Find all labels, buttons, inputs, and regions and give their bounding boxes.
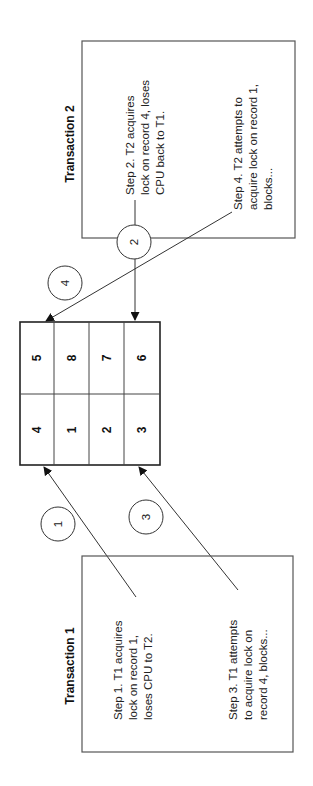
- transaction-2-title: Transaction 2: [63, 105, 77, 183]
- record-cell: 8: [65, 354, 79, 361]
- svg-text:to acquire lock on: to acquire lock on: [242, 630, 254, 720]
- step-3-text: Step 3. T1 attempts to acquire lock on r…: [227, 620, 269, 720]
- svg-text:1: 1: [52, 521, 64, 527]
- svg-text:2: 2: [128, 239, 140, 245]
- record-cell: 1: [65, 426, 79, 433]
- svg-text:4: 4: [59, 279, 71, 286]
- svg-text:Step 3. T1 attempts: Step 3. T1 attempts: [227, 620, 239, 720]
- record-cell: 2: [100, 426, 114, 433]
- svg-text:record 4, blocks...: record 4, blocks...: [257, 629, 269, 720]
- step-4-text: Step 4. T2 attempts to acquire lock on r…: [232, 84, 274, 210]
- deadlock-diagram: Transaction 2 Step 2. T2 acquires lock o…: [0, 0, 313, 786]
- step-1-marker: 1: [41, 507, 75, 541]
- svg-text:3: 3: [140, 514, 152, 520]
- records-grid: 4 1 2 3 5 8 7 6: [20, 322, 160, 465]
- svg-text:lock on record 1,: lock on record 1,: [127, 635, 139, 720]
- svg-text:lock on record 4, loses: lock on record 4, loses: [139, 80, 151, 195]
- step-4-marker: 4: [48, 266, 82, 300]
- step-2-text: Step 2. T2 acquires lock on record 4, lo…: [124, 80, 166, 195]
- record-cell: 6: [135, 354, 149, 361]
- transaction-1-title: Transaction 1: [63, 627, 77, 705]
- svg-text:loses CPU to T2.: loses CPU to T2.: [142, 633, 154, 720]
- svg-text:Step 4. T2 attempts to: Step 4. T2 attempts to: [232, 97, 244, 210]
- record-cell: 3: [135, 426, 149, 433]
- record-cell: 4: [30, 426, 44, 433]
- record-cell: 7: [100, 354, 114, 361]
- svg-text:blocks...: blocks...: [262, 168, 274, 210]
- record-cell: 5: [30, 354, 44, 361]
- svg-text:CPU back to T1.: CPU back to T1.: [154, 111, 166, 195]
- svg-text:acquire lock on record 1,: acquire lock on record 1,: [247, 84, 259, 210]
- svg-text:Step 1. T1 acquires: Step 1. T1 acquires: [112, 620, 124, 720]
- step-2-marker: 2: [117, 225, 151, 259]
- step-3-marker: 3: [129, 500, 163, 534]
- step-1-text: Step 1. T1 acquires lock on record 1, lo…: [112, 620, 154, 720]
- svg-text:Step 2. T2 acquires: Step 2. T2 acquires: [124, 95, 136, 195]
